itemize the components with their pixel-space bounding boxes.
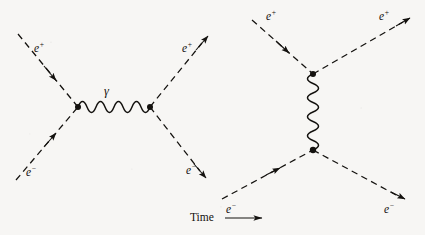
photon-wavy-line-horizontal (78, 102, 150, 113)
arrowhead-icon (266, 168, 280, 175)
leg-incoming-positron-left (18, 34, 78, 107)
label-photon-gamma: γ (104, 84, 109, 99)
label-outgoing-positron-left: e+ (182, 42, 192, 54)
label-incoming-electron-left: e− (26, 166, 36, 178)
leg-outgoing-electron-left (150, 107, 206, 178)
diagram-annihilation (16, 34, 208, 180)
label-incoming-positron-right: e+ (266, 10, 276, 22)
arrowhead-icon (196, 36, 208, 50)
label-incoming-electron-right: e− (226, 203, 236, 215)
leg-outgoing-positron-left (150, 36, 208, 107)
label-incoming-positron-left: e+ (34, 42, 44, 54)
figure-canvas (0, 0, 425, 235)
leg-incoming-positron-right (252, 20, 313, 74)
arrowhead-icon (44, 133, 56, 147)
arrowhead-icon (391, 192, 405, 199)
label-outgoing-electron-left: e− (186, 164, 196, 176)
arrowhead-icon (276, 41, 289, 53)
arrowhead-icon (396, 18, 410, 26)
photon-wavy-line-vertical (308, 74, 319, 150)
vertex-top (310, 71, 316, 77)
time-axis-label: Time (190, 211, 214, 223)
arrowhead-icon (44, 66, 56, 81)
leg-outgoing-positron-right (313, 18, 410, 74)
vertex-left (75, 104, 81, 110)
diagram-scattering (222, 18, 410, 199)
label-outgoing-electron-right: e− (384, 203, 394, 215)
label-outgoing-positron-right: e+ (379, 10, 389, 22)
vertex-right (147, 104, 153, 110)
vertex-bottom (310, 147, 316, 153)
leg-incoming-electron-right (222, 150, 313, 199)
feynman-diagram-figure: e+ e− e+ e− γ e+ e+ e− e− Time (0, 0, 425, 235)
leg-outgoing-electron-right (313, 150, 405, 199)
